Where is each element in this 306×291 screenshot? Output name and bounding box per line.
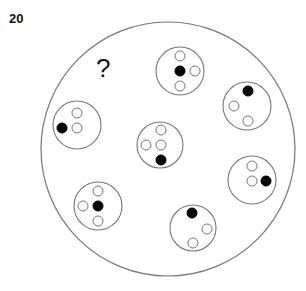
dot-group-right — [228, 156, 276, 204]
dot-group-left — [53, 101, 101, 149]
dot-group-bottom — [170, 205, 216, 251]
dot-group-top — [156, 47, 204, 95]
filled-dot — [57, 123, 67, 133]
open-dot — [93, 216, 103, 226]
filled-dot — [261, 176, 271, 186]
dot-group-lower-left — [74, 182, 122, 230]
open-dot — [175, 81, 185, 91]
filled-dot — [156, 155, 166, 165]
dot-group-center — [137, 122, 183, 168]
filled-dot — [243, 86, 253, 96]
open-dot — [78, 201, 88, 211]
open-dot — [72, 123, 82, 133]
open-dot — [247, 176, 257, 186]
groups-layer — [53, 47, 276, 251]
question-mark: ? — [96, 55, 110, 81]
open-dot — [202, 224, 212, 234]
open-dot — [188, 238, 198, 248]
filled-dot — [93, 201, 103, 211]
open-dot — [141, 140, 151, 150]
open-dot — [247, 161, 257, 171]
filled-dot — [187, 208, 197, 218]
dot-group-upper-right — [223, 82, 271, 130]
open-dot — [243, 116, 253, 126]
open-dot — [156, 140, 166, 150]
filled-dot — [175, 66, 185, 76]
open-dot — [156, 125, 166, 135]
circle-diagram — [0, 0, 306, 291]
open-dot — [175, 51, 185, 61]
open-dot — [93, 186, 103, 196]
open-dot — [72, 108, 82, 118]
open-dot — [229, 101, 239, 111]
open-dot — [190, 66, 200, 76]
